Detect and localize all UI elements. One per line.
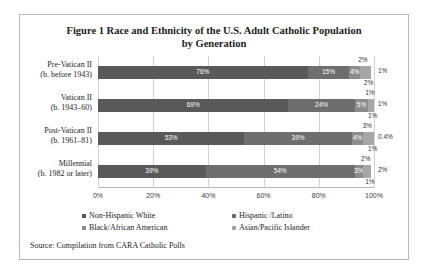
legend-item[interactable]: Hispanic /Latino — [232, 211, 382, 220]
segment-value-callout: 1% — [378, 101, 387, 108]
bar-segment[interactable] — [368, 165, 371, 178]
legend-label: Hispanic /Latino — [239, 211, 293, 220]
x-tick-label: 0% — [93, 192, 103, 199]
segment-value-label: 76% — [196, 69, 209, 76]
stacked-bar[interactable]: 69%24%5% — [98, 99, 374, 112]
gridline — [374, 56, 375, 188]
bar-segment[interactable]: 39% — [98, 165, 206, 178]
bar-segment[interactable] — [371, 99, 374, 112]
source-note: Source: Compilation from CARA Catholic P… — [30, 241, 185, 250]
x-tick-label: 80% — [312, 192, 326, 199]
bar-segment[interactable]: 53% — [98, 132, 244, 145]
legend-label: Asian/Pacific Islander — [239, 223, 310, 232]
segment-value-callout: 2% — [364, 80, 373, 87]
bar-segment[interactable]: 54% — [206, 165, 355, 178]
bar-segment[interactable]: 39% — [244, 132, 352, 145]
category-label-line2: (b. 1943–60) — [6, 103, 92, 113]
segment-value-label: 39% — [292, 135, 305, 142]
bar-segment[interactable]: 3% — [355, 165, 363, 178]
segment-value-label: 15% — [322, 69, 335, 76]
category-label: Pre-Vatican II(b. before 1943) — [6, 60, 98, 80]
legend-swatch-icon — [232, 226, 236, 230]
category-label-line2: (b. before 1943) — [6, 70, 92, 80]
figure-frame: Figure 1 Race and Ethnicity of the U.S. … — [19, 14, 409, 260]
bar-segment[interactable] — [363, 132, 371, 145]
segment-value-callout: 2% — [358, 57, 367, 64]
bar-row: Pre-Vatican II(b. before 1943)76%15%4%2%… — [98, 56, 374, 89]
category-label: Vatican II(b. 1943–60) — [6, 93, 98, 113]
bar-segment[interactable] — [366, 66, 372, 79]
bar-segment[interactable] — [371, 132, 374, 145]
category-label-line1: Pre-Vatican II — [47, 60, 92, 69]
segment-value-callout: 1% — [365, 179, 374, 186]
bar-segment[interactable]: 5% — [355, 99, 369, 112]
category-label: Post-Vatican II(b. 1961–81) — [6, 126, 98, 146]
segment-value-label: 53% — [165, 135, 178, 142]
segment-value-label: 24% — [315, 102, 328, 109]
bar-segment[interactable]: 4% — [349, 66, 360, 79]
x-tick-label: 60% — [257, 192, 271, 199]
segment-value-callout: 1% — [365, 90, 374, 97]
stacked-bar[interactable]: 53%39%4% — [98, 132, 374, 145]
stacked-bar[interactable]: 76%15%4% — [98, 66, 374, 79]
bar-segment[interactable]: 4% — [352, 132, 363, 145]
segment-value-callout: 2% — [378, 167, 387, 174]
segment-value-label: 69% — [187, 102, 200, 109]
segment-value-callout: 1% — [368, 113, 377, 120]
legend-swatch-icon — [232, 214, 236, 218]
segment-value-callout: 3% — [362, 123, 371, 130]
figure-title: Figure 1 Race and Ethnicity of the U.S. … — [20, 15, 408, 50]
bar-row: Post-Vatican II(b. 1961–81)53%39%4%3%1%0… — [98, 122, 374, 155]
legend-item[interactable]: Black/African American — [82, 223, 232, 232]
category-label-line1: Post-Vatican II — [44, 126, 92, 135]
segment-value-callout: 2% — [361, 156, 370, 163]
legend-item[interactable]: Non-Hispanic White — [82, 211, 232, 220]
bar-row: Millennial(b. 1982 or later)39%54%3%2%1%… — [98, 155, 374, 188]
category-label-line2: (b. 1961–81) — [6, 136, 92, 146]
segment-value-label: 4% — [350, 69, 359, 76]
segment-value-label: 39% — [145, 168, 158, 175]
figure-title-line2: by Generation — [182, 38, 246, 49]
category-label-line1: Vatican II — [61, 93, 92, 102]
segment-value-label: 54% — [274, 168, 287, 175]
bar-segment[interactable]: 15% — [308, 66, 349, 79]
bar-segment[interactable]: 69% — [98, 99, 288, 112]
stacked-bar[interactable]: 39%54%3% — [98, 165, 374, 178]
stacked-bar-chart-plot: Pre-Vatican II(b. before 1943)76%15%4%2%… — [98, 56, 374, 188]
category-label-line2: (b. 1982 or later) — [6, 169, 92, 179]
legend-label: Black/African American — [89, 223, 167, 232]
legend-item[interactable]: Asian/Pacific Islander — [232, 223, 382, 232]
segment-value-callout: 0.4% — [378, 134, 393, 141]
legend-swatch-icon — [82, 226, 86, 230]
legend-label: Non-Hispanic White — [89, 211, 155, 220]
x-tick-label: 20% — [146, 192, 160, 199]
category-label-line1: Millennial — [59, 159, 92, 168]
segment-value-callout: 1% — [378, 68, 387, 75]
bar-segment[interactable]: 76% — [98, 66, 308, 79]
figure-title-line1: Figure 1 Race and Ethnicity of the U.S. … — [67, 25, 362, 36]
bar-row: Vatican II(b. 1943–60)69%24%5%1%1%1% — [98, 89, 374, 122]
category-label: Millennial(b. 1982 or later) — [6, 159, 98, 179]
segment-value-callout: 1% — [368, 146, 377, 153]
x-tick-label: 40% — [201, 192, 215, 199]
segment-value-label: 5% — [357, 102, 366, 109]
bar-segment[interactable]: 24% — [288, 99, 354, 112]
segment-value-label: 4% — [353, 135, 362, 142]
legend-swatch-icon — [82, 214, 86, 218]
chart-legend: Non-Hispanic WhiteHispanic /LatinoBlack/… — [82, 211, 382, 232]
x-tick-label: 100% — [365, 192, 383, 199]
